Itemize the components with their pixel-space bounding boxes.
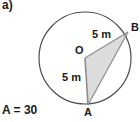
point-label-o: O xyxy=(75,45,84,56)
point-label-a: A xyxy=(84,107,92,118)
area-value-label: A = 30 xyxy=(2,104,37,116)
radius-length-label-ob: 5 m xyxy=(92,29,111,40)
radius-length-label-oa: 5 m xyxy=(62,72,81,83)
part-label: a) xyxy=(2,0,13,11)
geometry-figure: a) A = 30 O B A 5 m 5 m xyxy=(0,0,140,122)
point-label-b: B xyxy=(131,22,139,33)
